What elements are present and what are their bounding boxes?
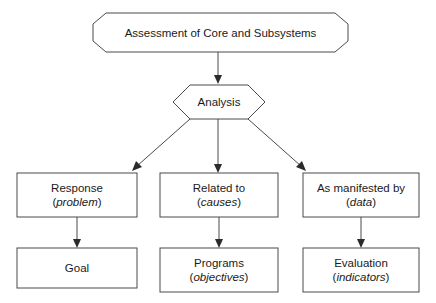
flowchart-graphics [0,0,436,303]
arrowhead-related-to-programs [215,239,223,248]
box-goal-shape [17,248,137,288]
box-evaluation-shape [303,248,419,292]
flowchart-canvas: Assessment of Core and Subsystems Analys… [0,0,436,303]
arrowhead-manifested-to-evaluation [357,239,365,248]
box-related-shape [160,173,278,217]
arrowhead-response-to-goal [73,239,81,248]
arrowhead-analysis-to-related [214,164,222,173]
box-manifested-shape [303,173,419,217]
hexagon-analysis-shape [173,85,265,119]
connector-analysis-to-response [137,119,190,166]
connector-analysis-to-manifested [248,119,301,166]
box-programs-shape [160,248,278,292]
box-response-shape [17,173,137,217]
octagon-assessment-shape [93,13,348,52]
arrowhead-assessment-to-analysis [214,75,222,84]
